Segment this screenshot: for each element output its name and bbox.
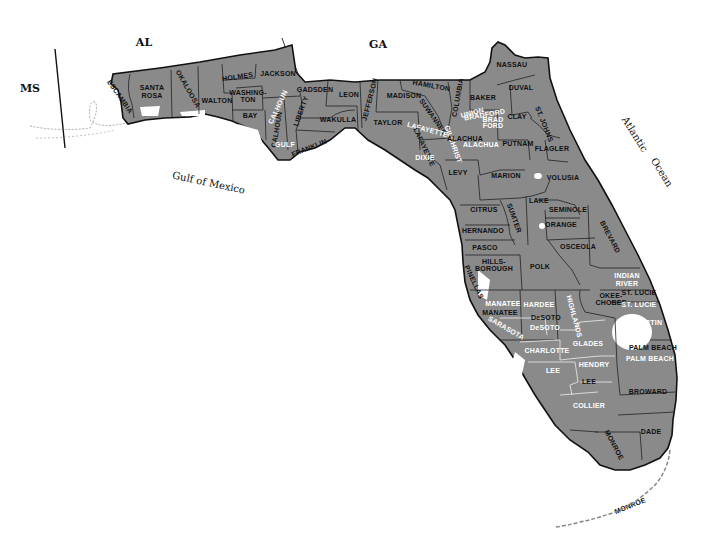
county-label-charlotte: CHARLOTTE bbox=[525, 347, 570, 354]
county-label-glades: GLADES bbox=[573, 340, 604, 347]
county-label-dade: DADE bbox=[641, 428, 662, 435]
county-label-desoto: DeSOTO bbox=[531, 314, 561, 321]
county-label-marion: MARION bbox=[491, 172, 521, 179]
county-label-santa: SANTA bbox=[140, 84, 165, 91]
county-label-washing-: WASHING- bbox=[229, 89, 267, 96]
county-label-monroe: MONROE bbox=[614, 496, 647, 515]
county-label-broward: BROWARD bbox=[629, 388, 667, 395]
county-label-palm-beach: PALM BEACH bbox=[629, 344, 677, 351]
county-label-duval: DUVAL bbox=[509, 84, 534, 91]
county-label-dixie: DIXIE bbox=[415, 154, 434, 161]
state-label-ga: GA bbox=[369, 38, 387, 51]
county-label-taylor: TAYLOR bbox=[374, 119, 403, 126]
water-label: Gulf of Mexico bbox=[171, 170, 246, 196]
pensacola-bay bbox=[140, 106, 160, 116]
al-coastline bbox=[30, 102, 130, 130]
county-label-hills-: HILLS- bbox=[482, 258, 506, 265]
county-label-ford: FORD bbox=[483, 122, 504, 129]
county-label-st-lucie: ST. LUCIE bbox=[622, 289, 657, 296]
county-label-citrus: CITRUS bbox=[470, 206, 497, 213]
county-label-bay: BAY bbox=[243, 112, 258, 119]
county-label-rosa: ROSA bbox=[141, 92, 162, 99]
county-label-martin: MARTIN bbox=[634, 319, 662, 326]
lake-george bbox=[534, 173, 542, 179]
county-label-gadsden: GADSDEN bbox=[297, 86, 333, 93]
county-label-palm-beach: PALM BEACH bbox=[626, 355, 674, 362]
state-label-ms: MS bbox=[20, 82, 40, 95]
county-label-alachua: ALACHUA bbox=[463, 141, 499, 148]
county-label-nassau: NASSAU bbox=[497, 61, 528, 68]
county-label-osceola: OSCEOLA bbox=[560, 243, 596, 250]
county-label-ton: TON bbox=[240, 96, 255, 103]
county-label-lake: LAKE bbox=[529, 197, 549, 204]
county-label-lee: LEE bbox=[582, 378, 596, 385]
county-label-manatee: MANATEE bbox=[482, 309, 518, 316]
county-label-manatee: MANATEE bbox=[485, 300, 521, 307]
county-label-volusia: VOLUSIA bbox=[547, 174, 580, 181]
county-label-wakulla: WAKULLA bbox=[320, 116, 356, 123]
county-label-orange: ORANGE bbox=[545, 221, 577, 228]
county-label-hernando: HERNANDO bbox=[462, 227, 504, 234]
county-label-flagler: FLAGLER bbox=[535, 145, 569, 152]
county-label-lee: LEE bbox=[546, 367, 560, 374]
county-label-st-lucie: ST. LUCIE bbox=[622, 301, 657, 308]
county-label-collier: COLLIER bbox=[573, 402, 605, 409]
county-label-walton: WALTON bbox=[202, 97, 233, 104]
county-label-hardee: HARDEE bbox=[524, 301, 555, 308]
county-label-madison: MADISON bbox=[387, 92, 421, 99]
county-label-jackson: JACKSON bbox=[260, 70, 296, 77]
county-label-leon: LEON bbox=[339, 91, 359, 98]
county-label-pasco: PASCO bbox=[472, 244, 498, 251]
county-label-putnam: PUTNAM bbox=[502, 140, 533, 147]
ms-al-border bbox=[55, 49, 65, 148]
florida-map: ALGAMS Gulf of MexicoAtlanticOcean ESCAM… bbox=[0, 0, 717, 557]
county-label-polk: POLK bbox=[530, 263, 550, 270]
water-label: Atlantic bbox=[619, 114, 650, 154]
county-label-desoto: DeSOTO bbox=[530, 324, 560, 331]
county-label-clay: CLAY bbox=[507, 113, 526, 120]
county-label-baker: BAKER bbox=[470, 94, 496, 101]
ms-coastline bbox=[36, 130, 115, 138]
county-label-indian: INDIAN bbox=[614, 272, 639, 279]
water-label: Ocean bbox=[649, 156, 676, 190]
county-label-hendry: HENDRY bbox=[579, 361, 610, 368]
county-label-levy: LEVY bbox=[448, 169, 467, 176]
county-label-river: RIVER bbox=[616, 280, 638, 287]
state-label-al: AL bbox=[135, 36, 153, 49]
county-label-seminole: SEMINOLE bbox=[549, 206, 587, 213]
county-label-okee-: OKEE- bbox=[599, 292, 623, 299]
county-label-gulf: GULF bbox=[275, 141, 295, 148]
county-label-borough: BOROUGH bbox=[475, 265, 513, 272]
